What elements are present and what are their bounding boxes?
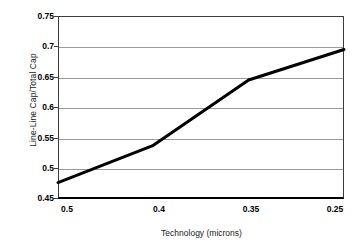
y-tick-label-0.75: 0.75 — [6, 11, 54, 21]
series-polyline — [58, 50, 344, 183]
x-tick-label-0.25: 0.25 — [305, 204, 359, 214]
y-tick-label-0.45: 0.45 — [6, 193, 54, 203]
y-tick-label-0.55: 0.55 — [6, 133, 54, 143]
x-tick-label-0.5: 0.5 — [37, 204, 97, 214]
y-tick-label-0.65: 0.65 — [6, 72, 54, 82]
x-axis-title: Technology (microns) — [58, 228, 345, 238]
chart-figure: Line-Line Cap/Total Cap 0.75 0.7 0.65 0.… — [0, 0, 359, 250]
x-tick-label-0.35: 0.35 — [221, 204, 281, 214]
x-tick-label-0.4: 0.4 — [129, 204, 189, 214]
y-tick-label-0.5: 0.5 — [6, 163, 54, 173]
y-tick-label-0.7: 0.7 — [6, 41, 54, 51]
data-series-line — [58, 16, 344, 199]
y-tick-label-0.6: 0.6 — [6, 102, 54, 112]
